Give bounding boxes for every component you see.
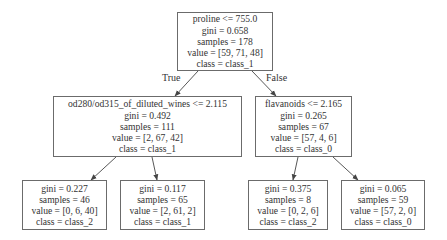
node-text-line: samples = 59 xyxy=(358,194,409,205)
node-text-line: flavanoids <= 2.165 xyxy=(265,98,342,109)
tree-node-n1: od280/od315_of_diluted_wines <= 2.115gin… xyxy=(53,96,242,157)
node-text-line: value = [2, 61, 2] xyxy=(129,205,195,216)
node-text-line: samples = 111 xyxy=(120,121,175,132)
node-text-line: gini = 0.375 xyxy=(265,183,312,194)
node-text-line: class = class_0 xyxy=(275,143,332,154)
node-text-line: od280/od315_of_diluted_wines <= 2.115 xyxy=(68,98,227,109)
node-text-line: samples = 46 xyxy=(39,194,90,205)
node-text-line: gini = 0.658 xyxy=(202,25,249,36)
node-text-line: value = [0, 2, 6] xyxy=(257,205,318,216)
tree-node-n2: flavanoids <= 2.165gini = 0.265samples =… xyxy=(255,96,352,157)
node-text-line: samples = 8 xyxy=(265,194,311,205)
node-text-line: gini = 0.117 xyxy=(139,183,185,194)
node-text-line: value = [59, 71, 48] xyxy=(187,47,263,58)
tree-node-n5: gini = 0.375samples = 8value = [0, 2, 6]… xyxy=(248,180,328,230)
node-text-line: gini = 0.492 xyxy=(124,110,171,121)
node-text-line: gini = 0.265 xyxy=(280,110,327,121)
node-text-line: value = [57, 2, 0] xyxy=(350,205,416,216)
node-text-line: class = class_1 xyxy=(119,143,176,154)
node-text-line: gini = 0.065 xyxy=(360,183,407,194)
node-text-line: value = [2, 67, 42] xyxy=(112,132,183,143)
node-text-line: class = class_2 xyxy=(259,216,316,227)
node-text-line: samples = 178 xyxy=(197,36,253,47)
tree-node-n0: proline <= 755.0gini = 0.658samples = 17… xyxy=(177,12,273,71)
node-text-line: proline <= 755.0 xyxy=(193,13,257,24)
node-text-line: samples = 67 xyxy=(278,121,329,132)
edge-arrow-n1-n4 xyxy=(152,157,157,180)
edge-arrow-n2-n6 xyxy=(333,157,358,180)
node-text-line: class = class_1 xyxy=(196,58,253,69)
tree-node-n6: gini = 0.065samples = 59value = [57, 2, … xyxy=(341,180,425,230)
node-text-line: class = class_2 xyxy=(36,216,93,227)
node-text-line: gini = 0.227 xyxy=(41,183,88,194)
node-text-line: class = class_1 xyxy=(134,216,191,227)
node-text-line: class = class_0 xyxy=(354,216,411,227)
tree-node-n4: gini = 0.117samples = 65value = [2, 61, … xyxy=(120,180,205,230)
node-text-line: samples = 65 xyxy=(137,194,188,205)
node-text-line: value = [0, 6, 40] xyxy=(31,205,97,216)
node-text-line: value = [57, 4, 6] xyxy=(270,132,336,143)
edge-label-true: True xyxy=(162,72,181,83)
edge-arrow-n2-n5 xyxy=(293,157,298,180)
tree-node-n3: gini = 0.227samples = 46value = [0, 6, 4… xyxy=(22,180,107,230)
edge-arrow-n1-n3 xyxy=(91,157,116,180)
edge-label-false: False xyxy=(266,72,287,83)
